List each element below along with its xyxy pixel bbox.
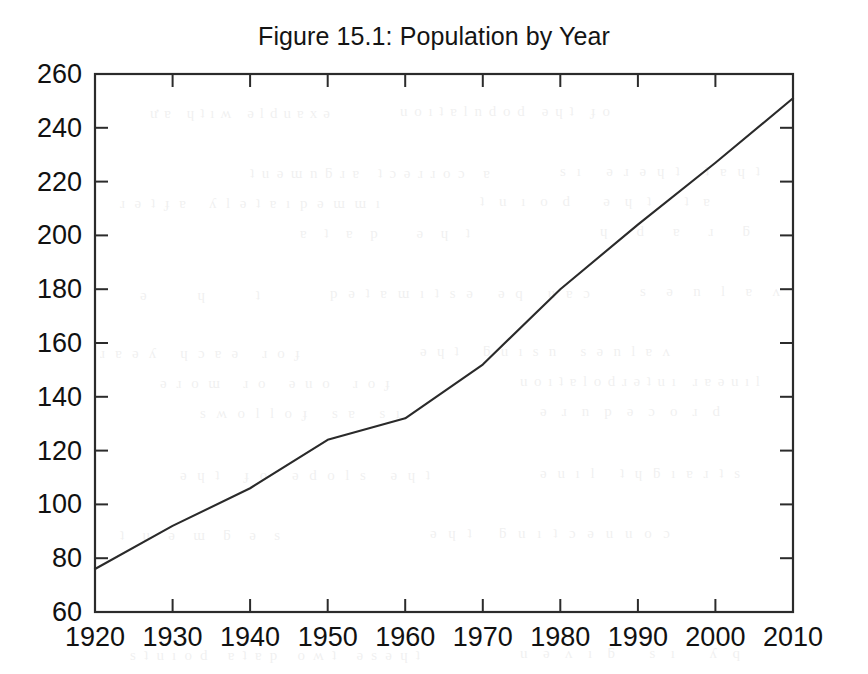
xtick-label: 1960 (375, 622, 435, 653)
xtick-label: 2000 (685, 622, 745, 653)
xtick-label: 1930 (143, 622, 203, 653)
ytick-label: 260 (20, 59, 82, 90)
xtick-label: 1940 (220, 622, 280, 653)
ytick-label: 160 (20, 328, 82, 359)
ytick-label: 120 (20, 436, 82, 467)
data-series-line (95, 98, 793, 569)
xtick-label: 1990 (608, 622, 668, 653)
xtick-label: 1970 (453, 622, 513, 653)
ytick-label: 200 (20, 220, 82, 251)
ytick-label: 180 (20, 274, 82, 305)
ytick-label: 220 (20, 167, 82, 198)
xtick-label: 1920 (65, 622, 125, 653)
plot-area (0, 0, 868, 674)
ytick-label: 100 (20, 489, 82, 520)
x-tick-marks (173, 74, 716, 612)
xtick-label: 1980 (530, 622, 590, 653)
xtick-label: 2010 (763, 622, 823, 653)
ytick-label: 140 (20, 382, 82, 413)
xtick-label: 1950 (298, 622, 358, 653)
y-tick-marks (95, 74, 793, 612)
ytick-label: 240 (20, 113, 82, 144)
ytick-label: 80 (20, 543, 82, 574)
axes-frame (95, 74, 793, 612)
figure-population-by-year: Figure 15.1: Population by Year (0, 0, 868, 674)
